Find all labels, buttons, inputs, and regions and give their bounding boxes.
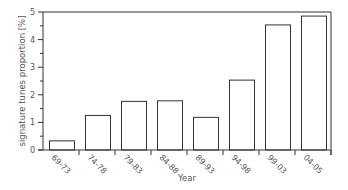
x-tick-label: 89-93 bbox=[194, 153, 217, 176]
y-tick-label: 4 bbox=[30, 36, 35, 45]
x-tick-label: 74-78 bbox=[86, 153, 109, 176]
bar-69-73 bbox=[50, 141, 75, 150]
y-tick-label: 2 bbox=[30, 91, 35, 100]
bar-chart: 012345 69-7374-7879-8384-8889-9394-9899-… bbox=[0, 0, 348, 190]
x-tick-label: 04-05 bbox=[302, 153, 325, 176]
bar-04-05 bbox=[302, 16, 327, 150]
x-tick-label: 94-98 bbox=[230, 153, 253, 176]
x-axis: 69-7374-7879-8384-8889-9394-9899-0304-05 bbox=[38, 150, 331, 176]
y-tick-label: 1 bbox=[30, 118, 35, 127]
y-tick-label: 5 bbox=[30, 8, 35, 17]
x-tick-label: 99-03 bbox=[266, 153, 289, 176]
bar-99-03 bbox=[266, 25, 291, 150]
bar-84-88 bbox=[158, 101, 183, 150]
y-tick-label: 3 bbox=[30, 63, 35, 72]
y-axis: 012345 bbox=[30, 8, 43, 155]
bars bbox=[50, 16, 327, 150]
bar-94-98 bbox=[230, 80, 255, 150]
bar-74-78 bbox=[86, 115, 111, 150]
bar-89-93 bbox=[194, 117, 219, 150]
x-axis-title: Year bbox=[177, 173, 197, 183]
x-tick-label: 69-73 bbox=[50, 153, 73, 176]
y-axis-title: signature tunes proportion [%] bbox=[17, 16, 27, 147]
y-tick-label: 0 bbox=[30, 146, 35, 155]
bar-79-83 bbox=[122, 101, 147, 150]
x-tick-label: 79-83 bbox=[122, 153, 145, 176]
x-tick-label: 84-88 bbox=[158, 153, 181, 176]
